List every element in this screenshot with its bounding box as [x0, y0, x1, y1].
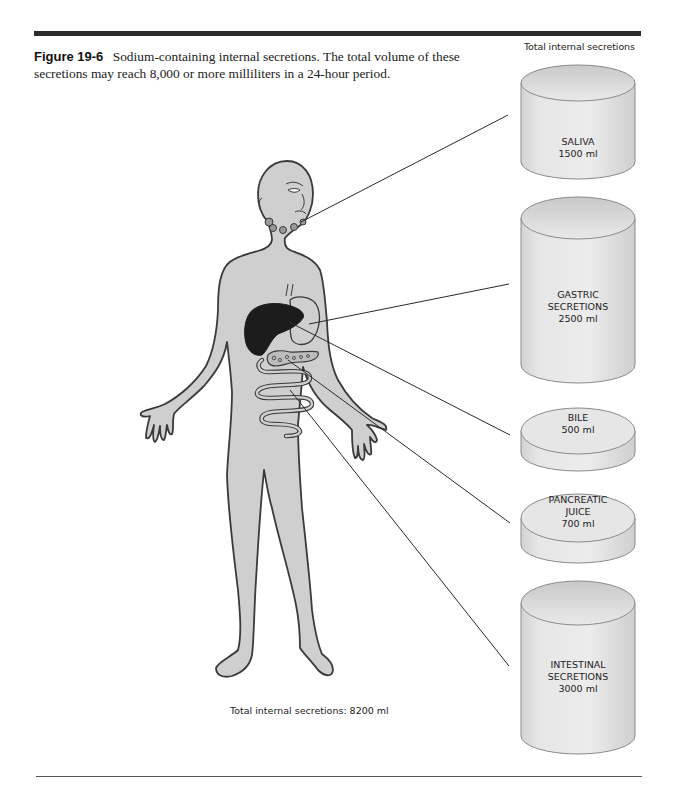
gastric-name-line2: SECRETIONS: [513, 301, 643, 313]
container-saliva: [521, 65, 635, 179]
bile-label: BILE 500 ml: [513, 412, 643, 436]
intestinal-label: INTESTINAL SECRETIONS 3000 ml: [513, 659, 643, 695]
saliva-volume: 1500 ml: [513, 148, 643, 160]
salivary-gland-submandibular: [280, 227, 287, 234]
leader-line-gastric: [309, 284, 509, 324]
total-secretions-note: Total internal secretions: 8200 ml: [230, 705, 389, 716]
saliva-label: SALIVA 1500 ml: [513, 136, 643, 160]
pancreatic-name-line2: JUICE: [513, 506, 643, 518]
saliva-name: SALIVA: [513, 136, 643, 148]
gastric-volume: 2500 ml: [513, 313, 643, 325]
intestinal-name: INTESTINAL: [513, 659, 643, 671]
gastric-label: GASTRIC SECRETIONS 2500 ml: [513, 289, 643, 325]
pancreatic-name: PANCREATIC: [513, 494, 643, 506]
intestinal-volume: 3000 ml: [513, 683, 643, 695]
leader-line-saliva: [301, 115, 508, 222]
intestinal-name-line2: SECRETIONS: [513, 671, 643, 683]
leader-line-pancreatic: [288, 360, 510, 523]
pancreatic-volume: 700 ml: [513, 518, 643, 530]
bile-volume: 500 ml: [513, 424, 643, 436]
leader-line-intestinal: [290, 390, 509, 666]
bile-name: BILE: [513, 412, 643, 424]
pancreatic-label: PANCREATIC JUICE 700 ml: [513, 494, 643, 530]
gastric-name: GASTRIC: [513, 289, 643, 301]
bottom-rule: [36, 776, 642, 777]
